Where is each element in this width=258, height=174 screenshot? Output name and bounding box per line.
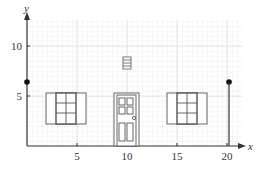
x-tick-15: 15 — [172, 150, 184, 162]
y-axis-label: y — [23, 2, 29, 14]
y-tick-10: 10 — [11, 40, 23, 52]
y-tick-5: 5 — [17, 90, 23, 102]
right-window — [167, 93, 207, 124]
x-tick-10: 10 — [122, 150, 134, 162]
house-coordinate-diagram: 5 10 15 20 5 10 x y — [0, 0, 258, 174]
x-tick-20: 20 — [222, 150, 234, 162]
left-window — [46, 93, 86, 124]
point-left — [24, 79, 30, 85]
vent — [123, 57, 131, 69]
x-axis-label: x — [247, 140, 253, 152]
door — [114, 93, 139, 146]
x-tick-5: 5 — [74, 150, 80, 162]
